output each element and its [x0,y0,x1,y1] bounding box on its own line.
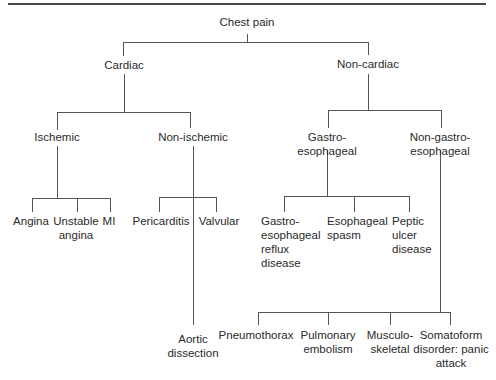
node-label: spasm [327,228,388,242]
node-label: Pulmonary [301,328,356,342]
node-label: angina [53,228,98,242]
node-label: Chest pain [220,15,275,29]
node-mi: MI [103,214,116,228]
node-unstable-angina: Unstable angina [53,214,98,242]
node-label: skeletal [367,342,414,356]
node-cardiac: Cardiac [104,58,144,72]
node-label: Gastro- [261,214,320,228]
node-label: Non-gastro- [410,130,471,144]
node-label: Unstable [53,214,98,228]
node-label: Angina [13,214,49,228]
node-pneumothorax: Pneumothorax [219,328,294,342]
node-label: dissection [167,346,218,360]
node-label: Non-cardiac [337,57,399,71]
node-label: Cardiac [104,58,144,72]
node-label: disease [261,256,320,270]
node-non-ischemic: Non-ischemic [158,130,228,144]
node-label: Pneumothorax [219,328,294,342]
node-label: Non-ischemic [158,130,228,144]
node-label: embolism [301,342,356,356]
node-musculoskeletal: Musculo- skeletal [367,328,414,356]
node-label: Ischemic [34,130,79,144]
node-label: Valvular [199,214,240,228]
node-gastro-esophageal: Gastro- esophageal [297,130,356,158]
node-label: disorder: panic [413,342,488,356]
node-label: attack [413,356,488,370]
node-label: esophageal [297,144,356,158]
node-label: Gastro- [297,130,356,144]
node-esophageal-spasm: Esophageal spasm [327,214,388,242]
node-chest-pain: Chest pain [220,15,275,29]
node-label: Pericarditis [133,214,190,228]
node-pulmonary-embolism: Pulmonary embolism [301,328,356,356]
node-pericarditis: Pericarditis [133,214,190,228]
node-label: esophageal [410,144,471,158]
node-non-cardiac: Non-cardiac [337,57,399,71]
node-non-gastro-esophageal: Non-gastro- esophageal [410,130,471,158]
node-label: reflux [261,242,320,256]
node-label: Musculo- [367,328,414,342]
node-aortic-dissection: Aortic dissection [167,332,218,360]
node-valvular: Valvular [199,214,240,228]
node-somatoform-disorder: Somatoform disorder: panic attack [413,328,488,370]
node-label: Somatoform [413,328,488,342]
node-label: Peptic [392,214,432,228]
node-label: disease [392,242,432,256]
node-ischemic: Ischemic [34,130,79,144]
node-label: Esophageal [327,214,388,228]
connector-lines [0,0,496,380]
node-label: ulcer [392,228,432,242]
node-label: MI [103,214,116,228]
node-label: esophageal [261,228,320,242]
node-label: Aortic [167,332,218,346]
node-angina: Angina [13,214,49,228]
node-peptic-ulcer: Peptic ulcer disease [392,214,432,256]
node-gerd: Gastro- esophageal reflux disease [261,214,320,270]
